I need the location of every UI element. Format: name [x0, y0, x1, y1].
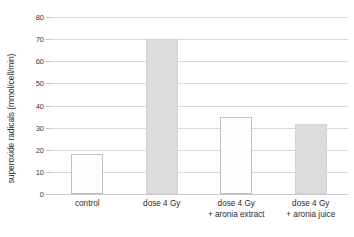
- x-tick-label-4: dose 4 Gy+ aronia juice: [268, 198, 354, 220]
- y-tick-label-30: 30: [22, 123, 44, 132]
- bar-3: [220, 117, 252, 194]
- x-tick-label-line2: + aronia juice: [268, 209, 354, 220]
- bar-1: [71, 154, 103, 194]
- gridline-40: [50, 106, 348, 107]
- y-tick-label-40: 40: [22, 101, 44, 110]
- y-tick-label-60: 60: [22, 57, 44, 66]
- x-tick-label-line1: dose 4 Gy: [143, 199, 180, 208]
- y-tick-mark-10: [46, 172, 50, 173]
- y-tick-label-20: 20: [22, 145, 44, 154]
- y-tick-mark-70: [46, 39, 50, 40]
- y-tick-label-10: 10: [22, 167, 44, 176]
- y-tick-label-50: 50: [22, 79, 44, 88]
- plot-area: [50, 17, 348, 194]
- y-tick-label-70: 70: [22, 35, 44, 44]
- y-tick-mark-0: [46, 194, 50, 195]
- y-axis-title: superoxide radicals (mmol/cell/min): [0, 0, 22, 237]
- gridline-70: [50, 39, 348, 40]
- bar-2: [146, 39, 178, 194]
- bar-chart: superoxide radicals (mmol/cell/min) 8070…: [0, 0, 354, 237]
- y-tick-mark-80: [46, 17, 50, 18]
- y-tick-label-80: 80: [22, 13, 44, 22]
- gridline-60: [50, 61, 348, 62]
- bar-4: [295, 124, 327, 194]
- gridline-80: [50, 17, 348, 18]
- y-tick-mark-60: [46, 61, 50, 62]
- x-tick-label-line1: dose 4 Gy: [292, 199, 329, 208]
- y-axis-tick-labels: 80706050403020100: [22, 17, 44, 194]
- x-tick-label-line1: control: [75, 199, 100, 208]
- y-tick-mark-30: [46, 128, 50, 129]
- y-tick-mark-20: [46, 150, 50, 151]
- y-tick-label-0: 0: [22, 190, 44, 199]
- gridline-0: [50, 194, 348, 195]
- y-tick-mark-40: [46, 106, 50, 107]
- y-tick-mark-50: [46, 83, 50, 84]
- x-tick-label-line1: dose 4 Gy: [218, 199, 255, 208]
- x-axis-tick-labels: controldose 4 Gydose 4 Gy+ aronia extrac…: [50, 198, 348, 236]
- gridline-50: [50, 83, 348, 84]
